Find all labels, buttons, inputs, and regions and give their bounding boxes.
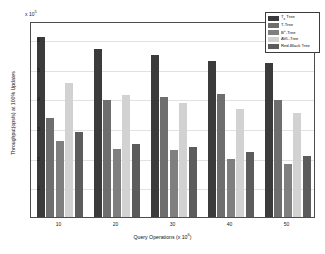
- bar: [179, 103, 187, 217]
- x-axis-title: Query Operations (x 106): [0, 232, 325, 240]
- bar: [227, 159, 235, 217]
- legend-label: AVL-Tree: [281, 37, 298, 41]
- y-axis-exponent-label: x 105: [25, 9, 37, 17]
- chart-legend: Tx TreeT-TreeB+-TreeAVL-TreeRed-Black Tr…: [265, 12, 320, 53]
- x-tick-label: 40: [227, 221, 233, 227]
- figure-canvas: x 105 123456 1020304050 Query Operations…: [0, 0, 325, 254]
- bar: [56, 141, 64, 217]
- bar: [94, 49, 102, 217]
- bar: [217, 94, 225, 217]
- x-tick-label: 30: [170, 221, 176, 227]
- bar: [170, 150, 178, 217]
- bar: [46, 118, 54, 217]
- legend-label: B+-Tree: [281, 30, 296, 36]
- bar: [132, 144, 140, 217]
- legend-item: Red-Black Tree: [268, 43, 317, 50]
- bar: [75, 132, 83, 217]
- bar: [274, 100, 282, 217]
- legend-label: Red-Black Tree: [281, 44, 310, 48]
- bar: [293, 113, 301, 217]
- legend-item: Tx Tree: [268, 15, 317, 22]
- bar: [284, 164, 292, 217]
- bar: [236, 109, 244, 217]
- bar: [151, 55, 159, 217]
- bar-group: [151, 23, 197, 217]
- legend-label: Tx Tree: [281, 15, 295, 21]
- bar: [160, 97, 168, 217]
- legend-item: T-Tree: [268, 22, 317, 29]
- x-tick-label: 50: [284, 221, 290, 227]
- bar: [113, 149, 121, 217]
- legend-swatch: [268, 16, 279, 21]
- bar: [122, 95, 130, 217]
- legend-label: T-Tree: [281, 23, 293, 27]
- bar: [265, 63, 273, 217]
- legend-swatch: [268, 37, 279, 42]
- legend-swatch: [268, 23, 279, 28]
- bar-group: [37, 23, 83, 217]
- legend-item: AVL-Tree: [268, 36, 317, 43]
- bar: [246, 152, 254, 217]
- bar: [208, 61, 216, 217]
- bar: [189, 147, 197, 217]
- bar: [37, 37, 45, 217]
- legend-swatch: [268, 30, 279, 35]
- x-tick-label: 20: [113, 221, 119, 227]
- x-tick-label: 10: [56, 221, 62, 227]
- bar: [65, 83, 73, 217]
- legend-swatch: [268, 44, 279, 49]
- bar-group: [208, 23, 254, 217]
- bar: [303, 156, 311, 217]
- bar-group: [94, 23, 140, 217]
- legend-item: B+-Tree: [268, 29, 317, 36]
- y-axis-title: Throughput(ops/s) at 100% Updates: [10, 18, 16, 208]
- bar: [103, 100, 111, 217]
